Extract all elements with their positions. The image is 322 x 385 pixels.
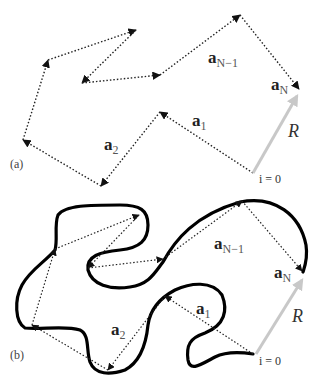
label-aN: aN bbox=[271, 75, 288, 98]
bond-b-a7 bbox=[88, 259, 163, 268]
panel-a-walk bbox=[23, 15, 299, 186]
label-b-aN: aN bbox=[274, 263, 291, 286]
bond-aN bbox=[240, 15, 299, 89]
diagram-canvas bbox=[0, 0, 322, 385]
bond-b-a6 bbox=[88, 215, 139, 268]
label-b-a1: a1 bbox=[196, 299, 211, 322]
label-aN-1: aN−1 bbox=[208, 48, 238, 71]
bond-a1 bbox=[160, 112, 253, 173]
label-b-aN-1: aN−1 bbox=[214, 234, 244, 257]
bond-a3 bbox=[23, 140, 101, 186]
label-b-start: i = 0 bbox=[259, 354, 281, 369]
label-a1: a1 bbox=[192, 111, 207, 134]
panel-label-b: (b) bbox=[10, 348, 24, 363]
bond-b-a3 bbox=[32, 325, 108, 370]
bond-b-a5 bbox=[55, 215, 139, 249]
polymer-contour-b bbox=[17, 201, 307, 373]
bond-a7 bbox=[82, 75, 160, 83]
bond-b-aN bbox=[242, 201, 302, 271]
label-b-R: R bbox=[292, 306, 303, 327]
label-start: i = 0 bbox=[259, 172, 281, 187]
bond-a6 bbox=[82, 30, 136, 83]
label-b-a2: a2 bbox=[111, 320, 126, 343]
bond-a5 bbox=[48, 30, 136, 60]
bond-a4 bbox=[23, 60, 48, 140]
label-a2: a2 bbox=[104, 135, 119, 158]
label-R: R bbox=[288, 121, 299, 142]
panel-label-a: (a) bbox=[10, 157, 23, 172]
